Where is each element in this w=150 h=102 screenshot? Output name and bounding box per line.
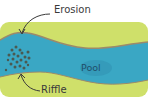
river-diagram <box>0 0 150 102</box>
pool-label: Pool <box>81 63 101 73</box>
riffle-label: Riffle <box>41 85 67 95</box>
erosion-label: Erosion <box>54 5 91 15</box>
